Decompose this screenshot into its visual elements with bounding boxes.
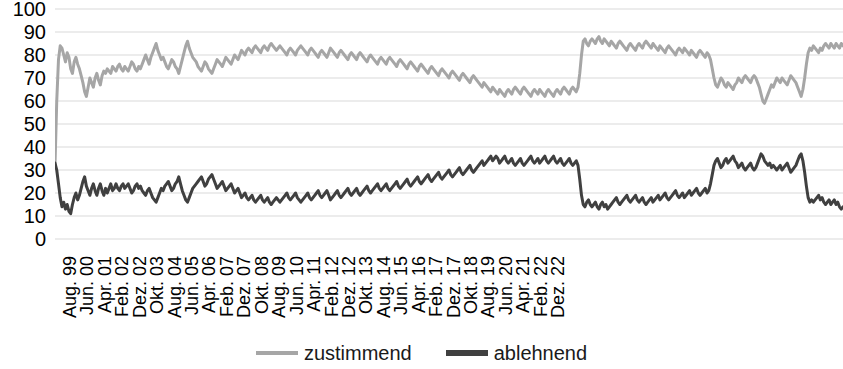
x-axis-tick-label: Jun. 10	[288, 256, 306, 315]
legend-ablehnend[interactable]: ablehnend	[446, 343, 587, 363]
x-axis-tick-label: Aug. 19	[479, 256, 497, 318]
y-axis-tick-label: 30	[0, 160, 46, 180]
x-axis-tick-label: Aug. 09	[270, 256, 288, 318]
x-axis-tick-label: Aug. 04	[166, 256, 184, 318]
chart-legend: zustimmendablehnend	[0, 336, 843, 369]
line-chart: 1009080706050403020100 Aug. 99Jun. 00Apr…	[0, 0, 843, 369]
series-line-ablehnend	[55, 154, 843, 214]
y-axis-tick-label: 40	[0, 137, 46, 157]
x-axis-tick-label: Dez. 17	[445, 256, 463, 318]
x-axis-tick-label: Apr. 11	[305, 256, 323, 312]
gridlines	[55, 9, 843, 239]
y-axis-tick-label: 20	[0, 183, 46, 203]
y-axis-tick-label: 0	[0, 229, 46, 249]
x-axis-tick-label: Apr. 16	[410, 256, 428, 313]
x-axis-tick-label: Okt. 03	[148, 256, 166, 314]
y-axis-tick-label: 10	[0, 206, 46, 226]
y-axis-tick-label: 100	[0, 0, 46, 19]
legend-label: zustimmend	[304, 343, 412, 363]
x-axis-tick-label: Feb. 12	[323, 256, 341, 317]
x-axis-tick-label: Jun. 15	[392, 256, 410, 315]
x-axis-tick-label: Feb. 17	[427, 256, 445, 317]
plot-area	[55, 0, 843, 248]
legend-zustimmend[interactable]: zustimmend	[256, 343, 412, 363]
plot-svg	[55, 0, 843, 248]
x-axis-tick-label: Dez. 07	[235, 256, 253, 318]
x-axis-tick-label: Feb. 02	[113, 256, 131, 317]
x-axis-tick-label: Jun. 00	[78, 256, 96, 315]
y-axis-tick-label: 50	[0, 114, 46, 134]
x-axis-tick-label: Okt. 13	[357, 256, 375, 314]
x-axis-tick-label: Apr. 21	[514, 256, 532, 313]
series-lines	[55, 37, 843, 214]
x-axis: Aug. 99Jun. 00Apr. 01Feb. 02Dez. 02Okt. …	[55, 248, 843, 334]
legend-line-swatch	[256, 351, 298, 355]
y-axis-tick-label: 80	[0, 45, 46, 65]
x-axis-tick-label: Dez. 22	[549, 256, 567, 318]
x-axis-tick-label: Apr. 06	[200, 256, 218, 313]
y-axis-tick-label: 60	[0, 91, 46, 111]
y-axis-tick-label: 70	[0, 68, 46, 88]
x-axis-tick-label: Feb. 22	[532, 256, 550, 317]
y-axis: 1009080706050403020100	[0, 0, 52, 248]
legend-label: ablehnend	[494, 343, 587, 363]
y-axis-tick-label: 90	[0, 22, 46, 42]
legend-line-swatch	[446, 350, 488, 356]
